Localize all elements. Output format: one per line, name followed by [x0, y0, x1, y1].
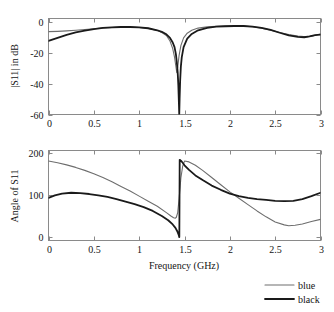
- y-tick-label: 0: [39, 232, 44, 243]
- x-tick-label: 3: [319, 118, 324, 129]
- magnitude-y-axis-title: |S11| in dB: [9, 44, 20, 88]
- legend-label-black: black: [298, 294, 320, 305]
- y-tick-label: -20: [30, 48, 43, 59]
- x-tick-label: 2.5: [269, 244, 282, 255]
- x-tick-label: 1.5: [179, 118, 192, 129]
- s11-figure: 00.511.522.53 0-20-40-60 |S11| in dB 00.…: [0, 0, 334, 312]
- x-tick-label: 0.5: [88, 244, 101, 255]
- x-tick-label: 0.5: [88, 118, 101, 129]
- angle-y-axis-title: Angle of S11: [9, 170, 20, 223]
- x-tick-label: 1: [137, 244, 142, 255]
- figure-container: 00.511.522.53 0-20-40-60 |S11| in dB 00.…: [0, 0, 334, 312]
- legend-label-blue: blue: [298, 280, 316, 291]
- y-tick-label: 0: [39, 17, 44, 28]
- x-tick-label: 1: [137, 118, 142, 129]
- x-tick-label: 3: [319, 244, 324, 255]
- y-tick-label: -60: [30, 110, 43, 121]
- x-tick-label: 0: [47, 118, 52, 129]
- x-tick-label: 0: [47, 244, 52, 255]
- x-tick-label: 2: [228, 118, 233, 129]
- x-tick-label: 2: [228, 244, 233, 255]
- x-tick-label: 2.5: [269, 118, 282, 129]
- y-tick-label: -40: [30, 79, 43, 90]
- x-tick-label: 1.5: [179, 244, 192, 255]
- y-tick-label: 100: [29, 190, 44, 201]
- y-tick-label: 200: [29, 148, 44, 159]
- angle-x-axis-title: Frequency (GHz): [149, 260, 219, 272]
